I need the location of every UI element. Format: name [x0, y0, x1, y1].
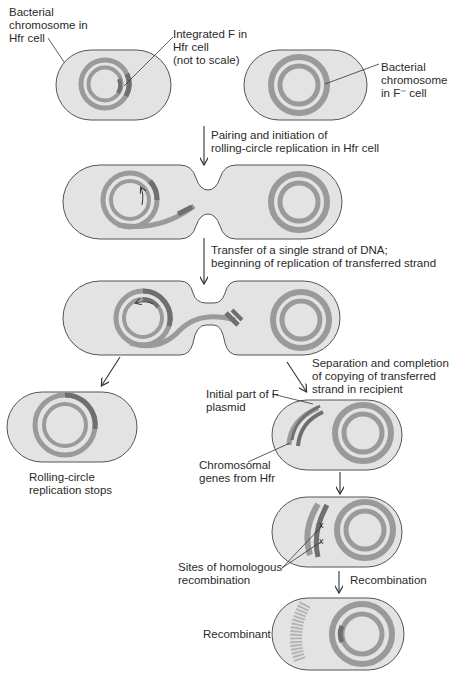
paired-cells-initiation [63, 165, 342, 239]
recipient-cell-pairing: x x [272, 497, 402, 567]
paired-cells-transfer [63, 281, 340, 355]
fminus-cell [244, 50, 367, 120]
label-step-separation: Separation and completion of copying of … [312, 357, 449, 396]
recipient-cell-separated [272, 400, 402, 470]
arrow-to-donor [102, 357, 120, 385]
label-rolling-circle-stops: Rolling-circle replication stops [29, 471, 112, 497]
label-integrated-f: Integrated F in Hfr cell (not to scale) [173, 28, 247, 67]
recombinant-cell [272, 598, 404, 670]
hfr-cell [56, 50, 171, 120]
donor-cell-stopped [7, 392, 137, 462]
label-recombination: Recombination [350, 574, 427, 587]
label-step-transfer: Transfer of a single strand of DNA; begi… [211, 244, 436, 270]
label-initial-f-plasmid: Initial part of F plasmid [206, 388, 279, 414]
label-chromosomal-genes: Chromosomal genes from Hfr [199, 459, 275, 485]
label-fminus-chromosome: Bacterial chromosome in F⁻ cell [381, 61, 447, 100]
label-homologous-sites: Sites of homologous recombination [178, 561, 282, 587]
label-hfr-chromosome: Bacterial chromosome in Hfr cell [9, 6, 88, 45]
arrow-to-recipient [287, 362, 306, 391]
label-recombinant: Recombinant [203, 628, 271, 641]
label-step-pairing: Pairing and initiation of rolling-circle… [211, 129, 379, 155]
